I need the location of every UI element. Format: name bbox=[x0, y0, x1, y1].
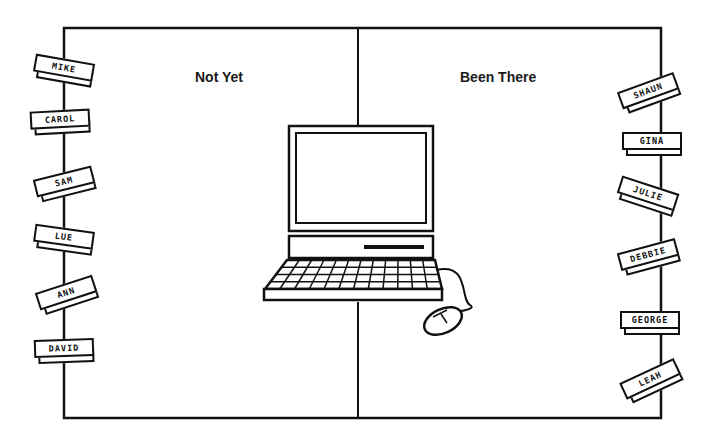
heading-not-yet: Not Yet bbox=[195, 69, 243, 85]
name-clip[interactable]: CAROL bbox=[30, 108, 95, 129]
keyboard-edge bbox=[264, 289, 442, 300]
name-label: CAROL bbox=[30, 109, 91, 130]
name-label: GINA bbox=[622, 132, 682, 150]
chart-board: Not Yet Been There MIKE CAROL SAM LUE AN… bbox=[0, 0, 720, 442]
heading-been-there: Been There bbox=[460, 69, 536, 85]
name-clip[interactable]: DAVID bbox=[34, 338, 99, 358]
monitor-screen bbox=[296, 133, 426, 223]
name-label: DAVID bbox=[34, 338, 95, 358]
mouse bbox=[420, 302, 466, 341]
disk-slot bbox=[364, 245, 424, 249]
name-clip[interactable]: GINA bbox=[622, 132, 686, 150]
name-clip[interactable]: GEORGE bbox=[620, 311, 684, 329]
name-label: GEORGE bbox=[620, 311, 680, 329]
computer-icon bbox=[264, 126, 472, 340]
board-frame bbox=[0, 0, 720, 442]
